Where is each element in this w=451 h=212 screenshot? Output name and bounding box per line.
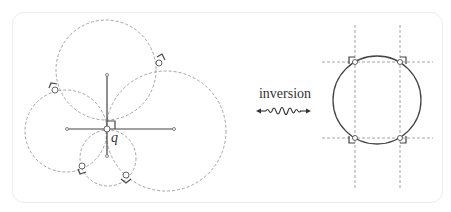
intersection-point bbox=[353, 60, 358, 65]
axis-endpoint bbox=[106, 74, 109, 77]
intersection-point bbox=[52, 87, 58, 93]
intersection-point bbox=[398, 60, 403, 65]
intersection-point bbox=[353, 136, 358, 141]
point-q-label: q bbox=[111, 130, 118, 146]
axes bbox=[67, 75, 174, 156]
inversion-diagram bbox=[0, 0, 451, 212]
right-angle-marker bbox=[121, 179, 131, 183]
intersection-point bbox=[79, 163, 85, 169]
inversion-label: inversion bbox=[257, 86, 313, 102]
right-angle-marker bbox=[157, 54, 165, 60]
solid-circle bbox=[333, 56, 421, 144]
axis-endpoint bbox=[106, 155, 109, 158]
dashed-circle-left bbox=[25, 90, 107, 172]
intersection-point bbox=[156, 60, 162, 66]
axis-endpoint bbox=[66, 128, 69, 131]
intersection-point bbox=[123, 172, 129, 178]
right-panel bbox=[322, 25, 433, 189]
intersection-point bbox=[398, 136, 403, 141]
dashed-circle-top bbox=[56, 20, 156, 120]
squiggle-arrow-icon bbox=[256, 108, 311, 115]
point-q bbox=[104, 126, 110, 132]
left-panel bbox=[25, 20, 226, 191]
axis-endpoint bbox=[173, 128, 176, 131]
